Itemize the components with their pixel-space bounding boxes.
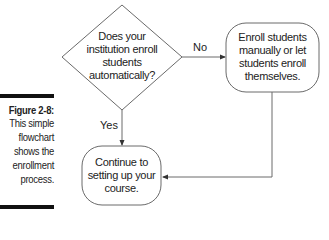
manual-line: students enroll bbox=[226, 57, 319, 70]
manual-line: themselves. bbox=[226, 70, 319, 83]
continue-line: setting up your bbox=[82, 169, 161, 182]
manual-line: manually or let bbox=[226, 44, 319, 57]
yes-label: Yes bbox=[100, 119, 118, 131]
decision-text: Does your institution enroll students au… bbox=[70, 30, 174, 82]
manual-line: Enroll students bbox=[226, 31, 319, 44]
continue-line: Continue to bbox=[82, 156, 161, 169]
decision-line: institution enroll bbox=[70, 43, 174, 56]
manual-to-continue-connector bbox=[163, 92, 272, 177]
decision-line: students bbox=[70, 56, 174, 69]
no-label: No bbox=[193, 41, 207, 53]
decision-line: automatically? bbox=[70, 69, 174, 82]
manual-box-text: Enroll students manually or let students… bbox=[226, 31, 319, 83]
continue-box-text: Continue to setting up your course. bbox=[82, 156, 161, 195]
continue-line: course. bbox=[82, 182, 161, 195]
decision-line: Does your bbox=[70, 30, 174, 43]
